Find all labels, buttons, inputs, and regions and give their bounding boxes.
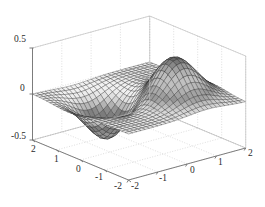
y-tick-label-0: 2	[31, 144, 36, 154]
z-tick-label-2: -0.5	[11, 131, 26, 141]
y-tick-label-2: 0	[76, 164, 81, 174]
z-tick-label-0: 0.5	[14, 34, 26, 44]
x-tick-label-1: -1	[159, 173, 167, 183]
z-tick-label-1: 0	[20, 83, 25, 93]
surface-mesh	[33, 57, 246, 139]
x-tick-label-3: 1	[218, 157, 223, 167]
y-tick-label-3: -1	[95, 172, 103, 182]
y-tick-label-1: 1	[54, 154, 59, 164]
y-tick-label-4: -2	[114, 181, 122, 191]
figure-canvas: 0.5 0 -0.5 2 1 0 -1 -2 -2 -1 0 1 2	[0, 0, 265, 207]
x-tick-label-0: -2	[131, 181, 139, 191]
surface-plot-svg	[0, 0, 265, 207]
x-tick-label-2: 0	[190, 165, 195, 175]
x-tick-label-4: 2	[248, 148, 253, 158]
